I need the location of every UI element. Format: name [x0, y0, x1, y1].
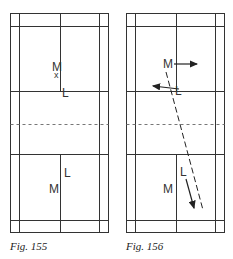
players-fig-156: M L L M	[163, 57, 187, 196]
court-fig-155	[11, 14, 109, 233]
player-l-rear: L	[180, 165, 187, 179]
diagram-canvas: M x L L M M L L M	[0, 0, 233, 259]
caption-fig-155: Fig. 155	[10, 240, 47, 252]
shuttle-mark: x	[54, 70, 59, 80]
player-m-rear: M	[49, 182, 59, 196]
court-fig-156	[127, 14, 225, 233]
player-l-front: L	[175, 84, 182, 98]
player-l-rear: L	[64, 166, 71, 180]
caption-fig-156: Fig. 156	[126, 240, 163, 252]
player-m-rear: M	[163, 182, 173, 196]
arrow-l-back-icon	[186, 179, 194, 208]
player-m-front: M	[163, 57, 173, 71]
player-l-front: L	[62, 86, 69, 100]
